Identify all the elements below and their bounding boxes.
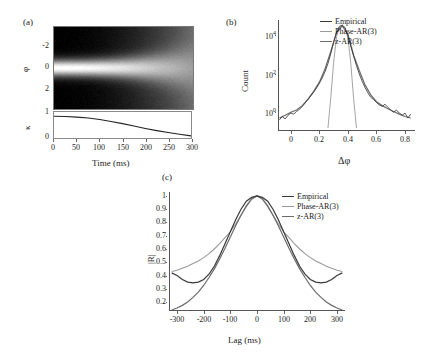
phase-heatmap [53,26,194,110]
panel-b-y-tick-label: 104 [250,30,276,41]
axis-tick-label: 300 [324,315,350,324]
panel-c-ylabel: |R| [146,254,156,264]
kappa-axis-title: κ [22,125,32,130]
panel-b-ylabel: Count [240,70,250,92]
axis-tick-mark [166,249,167,250]
axis-tick-label: 0.9 [140,204,166,213]
legend-item-z-ar3: z-AR(3) [320,37,377,46]
legend-swatch-phase-ar3 [282,206,294,208]
figure-root: (a) -2 0 2 φ 1 0 κ 050100150200250300 Ti… [0,0,426,359]
panel-a-xlabel: Time (ms) [92,158,129,168]
axis-tick-mark [204,311,205,314]
axis-tick-label: 0.7 [140,231,166,240]
panel-c-label: (c) [162,172,172,182]
panel-b-y-tick-label: 100 [250,107,276,118]
legend-item-z-ar3: z-AR(3) [282,212,339,221]
axis-tick-mark [166,289,167,290]
axis-tick-label: 1 [140,191,166,200]
axis-tick-mark [310,311,311,314]
axis-tick-mark [76,139,77,142]
legend-item-phase-ar3: Phase-AR(3) [282,202,339,211]
legend-label-z-ar3: z-AR(3) [335,37,362,46]
axis-tick-mark [376,131,377,134]
axis-tick-mark [146,139,147,142]
legend-swatch-empirical [282,196,294,198]
kappa-tick-1: 1 [30,107,49,116]
axis-tick-mark [166,236,167,237]
axis-tick-mark [319,131,320,134]
legend-label-phase-ar3: Phase-AR(3) [335,27,377,36]
legend-item-phase-ar3: Phase-AR(3) [320,27,377,36]
axis-tick-mark [284,311,285,314]
legend-swatch-z-ar3 [320,41,332,43]
axis-tick-mark [257,311,258,314]
axis-tick-label: 0.6 [140,244,166,253]
axis-tick-mark [192,139,193,142]
axis-tick-label: 0.4 [140,271,166,280]
legend-label-empirical: Empirical [335,17,367,26]
axis-tick-mark [405,131,406,134]
panel-b-xlabel: Δφ [338,155,350,166]
axis-tick-mark [166,196,167,197]
axis-tick-mark [275,74,276,75]
axis-tick-label: 200 [297,315,323,324]
axis-tick-label: -100 [217,315,243,324]
panel-b-legend: Empirical Phase-AR(3) z-AR(3) [320,17,377,47]
panel-b-y-tick-label: 102 [250,69,276,80]
legend-item-empirical: Empirical [282,192,339,201]
legend-swatch-phase-ar3 [320,31,332,33]
axis-tick-mark [166,209,167,210]
axis-tick-mark [53,139,54,142]
panel-b-label: (b) [226,17,237,27]
legend-label-phase-ar3: Phase-AR(3) [297,202,339,211]
legend-swatch-empirical [320,21,332,23]
axis-tick-mark [275,35,276,36]
panel-c-legend: Empirical Phase-AR(3) z-AR(3) [282,192,339,222]
axis-tick-label: 0 [280,135,302,144]
axis-tick-mark [275,112,276,113]
axis-tick-label: 0.4 [337,135,359,144]
panel-a-label: (a) [23,17,33,27]
kappa-tick-0: 0 [30,132,49,141]
axis-tick-label: 0.2 [308,135,330,144]
axis-tick-label: 0.6 [365,135,387,144]
legend-label-z-ar3: z-AR(3) [297,212,324,221]
panel-b: (b) 100102104 00.20.40.60.8 Count Δφ Emp… [212,0,426,175]
axis-tick-label: 300 [182,143,202,152]
axis-tick-mark [348,131,349,134]
axis-tick-mark [169,139,170,142]
phi-tick-0: -2 [25,41,49,50]
phi-axis-title: φ [20,67,30,72]
axis-tick-mark [291,131,292,134]
axis-tick-label: 0.8 [394,135,416,144]
axis-tick-label: 0.3 [140,284,166,293]
axis-tick-label: 0.8 [140,217,166,226]
axis-tick-mark [166,262,167,263]
legend-swatch-z-ar3 [282,216,294,218]
panel-c: (c) 10.90.80.70.60.50.40.30.2 -300-200-1… [60,172,400,359]
axis-tick-label: 0 [244,315,270,324]
axis-tick-mark [123,139,124,142]
axis-tick-label: 0 [43,143,63,152]
axis-tick-label: 200 [136,143,156,152]
axis-tick-label: -300 [164,315,190,324]
axis-tick-mark [99,139,100,142]
axis-tick-label: 0.2 [140,297,166,306]
kappa-curve [54,116,191,136]
axis-tick-label: 100 [271,315,297,324]
axis-tick-mark [230,311,231,314]
axis-tick-label: 100 [89,143,109,152]
legend-item-empirical: Empirical [320,17,377,26]
panel-b-x-axis [278,130,415,131]
axis-tick-mark [166,302,167,303]
panel-a: (a) -2 0 2 φ 1 0 κ 050100150200250300 Ti… [0,0,210,175]
axis-tick-label: -200 [191,315,217,324]
panel-c-xlabel: Lag (ms) [228,335,261,345]
axis-tick-label: 250 [159,143,179,152]
axis-tick-label: 150 [113,143,133,152]
axis-tick-label: 50 [66,143,86,152]
axis-tick-mark [177,311,178,314]
kappa-curve-svg [53,111,192,139]
axis-tick-mark [166,222,167,223]
axis-tick-mark [166,276,167,277]
